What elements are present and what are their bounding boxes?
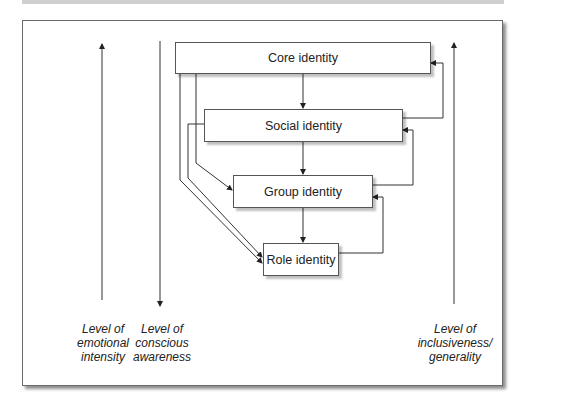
role-identity-box: Role identity	[263, 243, 339, 276]
social-identity-label: Social identity	[265, 119, 342, 133]
social-identity-box: Social identity	[204, 109, 403, 142]
emotional-intensity-label: Level of emotional intensity	[72, 322, 134, 364]
conscious-awareness-label: Level of conscious awareness	[130, 322, 194, 364]
group-identity-box: Group identity	[233, 175, 373, 208]
role-identity-label: Role identity	[267, 253, 336, 267]
inclusiveness-generality-label: Level of inclusiveness/ generality	[414, 322, 496, 364]
group-identity-label: Group identity	[264, 185, 342, 199]
core-identity-label: Core identity	[268, 51, 338, 65]
core-identity-box: Core identity	[175, 42, 431, 74]
